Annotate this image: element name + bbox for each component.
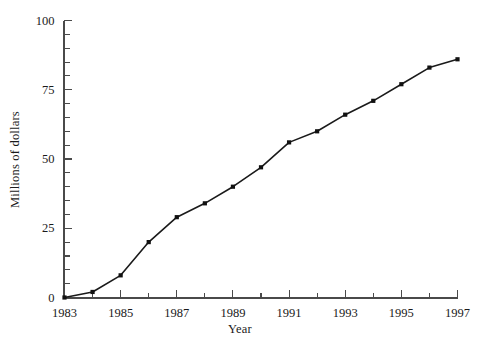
y-tick-label: 50 xyxy=(18,152,55,167)
y-tick-label: 75 xyxy=(18,82,55,97)
x-tick-label: 1985 xyxy=(108,306,133,321)
y-tick-label: 25 xyxy=(18,221,55,236)
plot-area: 1983: 01984: 21985: 81986: 201987: 29198… xyxy=(0,0,480,344)
data-point-marker: 1983: 0 xyxy=(62,295,66,299)
x-tick-label: 1995 xyxy=(389,306,414,321)
data-point-marker: 1984: 2 xyxy=(90,290,94,294)
y-tick-label: 100 xyxy=(18,13,55,28)
x-tick-label: 1989 xyxy=(220,306,245,321)
x-axis-title: Year xyxy=(0,322,480,337)
data-point-marker: 1994: 71 xyxy=(371,99,375,103)
data-point-marker: 1991: 56 xyxy=(287,140,291,144)
data-point-marker: 1990: 47 xyxy=(259,165,263,169)
x-tick-label: 1991 xyxy=(277,306,302,321)
y-tick-label: 0 xyxy=(18,290,55,305)
x-tick-label: 1983 xyxy=(52,306,77,321)
line-chart: 1983: 01984: 21985: 81986: 201987: 29198… xyxy=(0,0,480,344)
data-point-marker: 1988: 34 xyxy=(203,201,207,205)
x-tick-label: 1987 xyxy=(164,306,189,321)
data-point-marker: 1992: 60 xyxy=(315,129,319,133)
axes-group xyxy=(64,21,458,299)
x-tick-label: 1997 xyxy=(445,306,470,321)
data-point-marker: 1985: 8 xyxy=(119,273,123,277)
data-point-marker: 1997: 86 xyxy=(455,57,459,61)
data-point-marker: 1995: 77 xyxy=(399,82,403,86)
data-point-marker: 1996: 83 xyxy=(427,65,431,69)
data-series-group: 1983: 01984: 21985: 81986: 201987: 29198… xyxy=(62,57,459,299)
data-point-marker: 1989: 40 xyxy=(231,185,235,189)
data-point-marker: 1986: 20 xyxy=(147,240,151,244)
x-tick-label: 1993 xyxy=(333,306,358,321)
data-point-marker: 1987: 29 xyxy=(175,215,179,219)
data-line xyxy=(65,59,458,297)
data-point-marker: 1993: 66 xyxy=(343,113,347,117)
